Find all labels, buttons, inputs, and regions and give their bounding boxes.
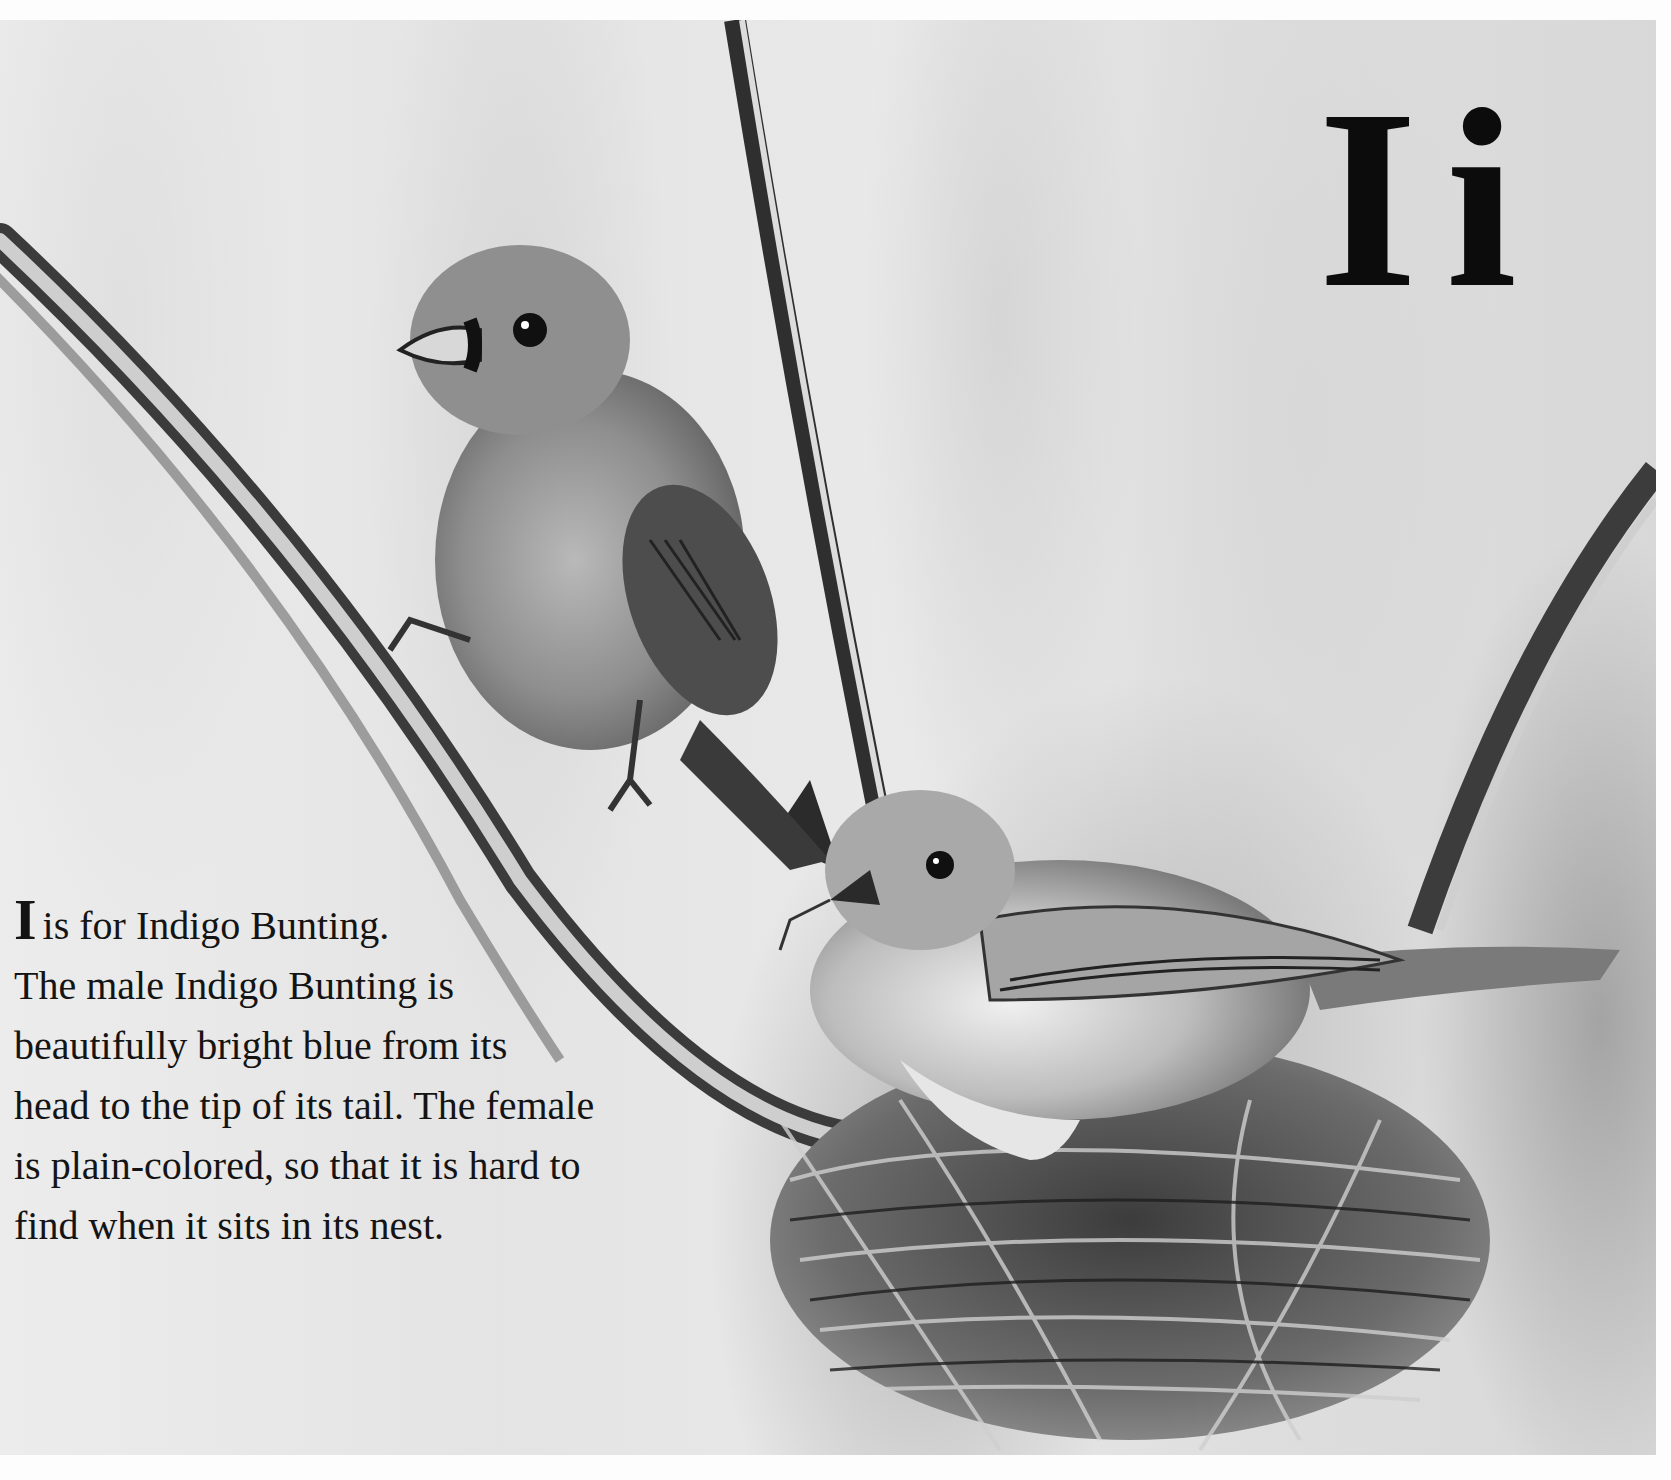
caption-first-line: Iis for Indigo Bunting. [14, 896, 734, 956]
alphabet-book-page: Ii Iis for Indigo Bunting. The male Indi… [0, 0, 1671, 1480]
lowercase-letter: i [1446, 57, 1545, 340]
caption-line: beautifully bright blue from its [14, 1016, 734, 1076]
alphabet-letter-heading: Ii [1318, 84, 1545, 314]
caption-line: head to the tip of its tail. The female [14, 1076, 734, 1136]
uppercase-letter: I [1318, 57, 1446, 340]
caption-line: find when it sits in its nest. [14, 1196, 734, 1256]
caption-first-line-text: is for Indigo Bunting. [43, 903, 390, 948]
caption-line: is plain-colored, so that it is hard to [14, 1136, 734, 1196]
drop-cap: I [14, 887, 37, 952]
page-caption: Iis for Indigo Bunting. The male Indigo … [14, 896, 734, 1256]
caption-line: The male Indigo Bunting is [14, 956, 734, 1016]
